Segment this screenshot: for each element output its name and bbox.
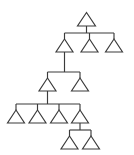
tree-diagram-canvas: [0, 0, 134, 155]
tree-node-triangle[interactable]: [39, 78, 56, 91]
tree-node-triangle[interactable]: [72, 78, 89, 91]
tree-diagram: [0, 0, 134, 155]
tree-node-triangle[interactable]: [29, 110, 46, 123]
tree-node-triangle[interactable]: [78, 13, 96, 27]
tree-node-triangle[interactable]: [83, 136, 100, 149]
tree-node-triangle[interactable]: [56, 39, 73, 52]
tree-node-triangle[interactable]: [81, 39, 98, 52]
tree-node-triangle[interactable]: [51, 110, 68, 123]
tree-node-triangle[interactable]: [106, 39, 123, 52]
tree-node-triangle[interactable]: [72, 110, 89, 123]
tree-node-triangle[interactable]: [61, 136, 78, 149]
tree-node-triangle[interactable]: [8, 110, 25, 123]
